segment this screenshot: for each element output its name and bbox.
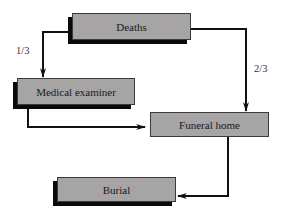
node-label: Funeral home — [179, 119, 240, 131]
edge-funeral-home-to-burial — [178, 137, 228, 196]
node-funeral-home: Funeral home — [150, 112, 269, 137]
node-burial: Burial — [57, 177, 176, 202]
node-deaths: Deaths — [72, 13, 191, 40]
node-label: Burial — [103, 184, 131, 196]
node-label: Medical examiner — [36, 86, 116, 98]
edge-label-two-thirds: 2/3 — [254, 63, 267, 74]
node-label: Deaths — [116, 21, 147, 33]
node-medical-examiner: Medical examiner — [17, 78, 135, 105]
edge-deaths-to-funeral-home — [191, 29, 246, 111]
edge-label-one-third: 1/3 — [16, 45, 29, 56]
